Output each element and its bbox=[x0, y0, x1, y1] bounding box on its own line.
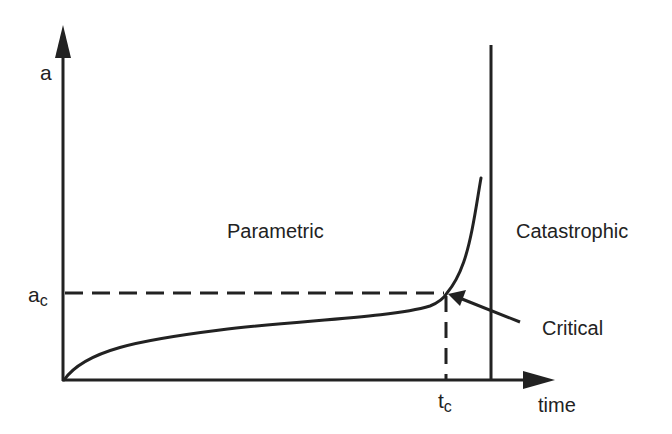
region-parametric-label: Parametric bbox=[227, 220, 324, 242]
x-axis-label: time bbox=[538, 394, 576, 416]
y-axis-label: a bbox=[40, 61, 52, 84]
critical-level-label: ac bbox=[28, 283, 48, 309]
critical-point-label: Critical bbox=[542, 317, 603, 339]
region-catastrophic-label: Catastrophic bbox=[516, 220, 628, 242]
crack-growth-diagram: a ac tc time Parametric Catastrophic Cri… bbox=[0, 0, 672, 434]
critical-time-label: tc bbox=[438, 389, 452, 415]
y-axis-arrow-icon bbox=[55, 25, 71, 58]
growth-curve bbox=[64, 178, 481, 380]
x-axis-arrow-icon bbox=[523, 371, 555, 389]
